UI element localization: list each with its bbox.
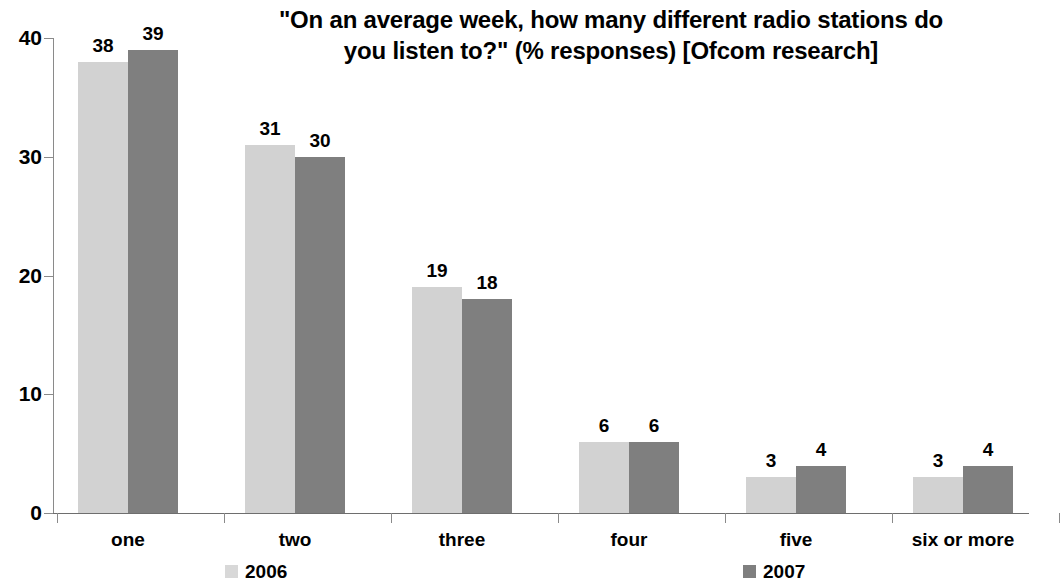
bar-2006-one: [78, 62, 128, 513]
x-axis-label-six-or-more: six or more: [883, 530, 1043, 549]
bar-2007-two: [295, 157, 345, 513]
bar-2006-four: [579, 442, 629, 513]
y-axis-tick: [44, 38, 53, 39]
x-axis-label-three: three: [382, 530, 542, 549]
x-axis-tick: [558, 513, 559, 523]
x-axis-label-four: four: [549, 530, 709, 549]
y-axis-tick: [44, 276, 53, 277]
y-axis-label: 20: [0, 265, 42, 286]
x-axis-tick: [725, 513, 726, 523]
bar-value-label: 3: [913, 451, 963, 470]
x-axis-label-five: five: [716, 530, 876, 549]
y-axis-label: 10: [0, 383, 42, 404]
bar-2007-six-or-more: [963, 466, 1013, 514]
bar-value-label: 18: [462, 273, 512, 292]
x-axis-label-two: two: [215, 530, 375, 549]
bar-value-label: 39: [128, 24, 178, 43]
bar-value-label: 6: [579, 416, 629, 435]
legend-item-2006[interactable]: 2006: [225, 562, 287, 581]
legend-swatch-2007-icon: [743, 565, 756, 578]
y-axis-label: 0: [0, 502, 42, 523]
x-axis-label-one: one: [48, 530, 208, 549]
y-axis-line: [53, 38, 54, 514]
y-axis-label: 30: [0, 146, 42, 167]
bar-2006-three: [412, 287, 462, 513]
bar-2007-five: [796, 466, 846, 514]
x-axis-line: [53, 513, 1029, 514]
x-axis-tick: [391, 513, 392, 523]
y-axis-tick: [44, 394, 53, 395]
legend-label-2006: 2006: [245, 562, 287, 581]
y-axis-tick: [44, 157, 53, 158]
y-axis-tick: [44, 513, 53, 514]
bar-value-label: 6: [629, 416, 679, 435]
bar-value-label: 4: [796, 440, 846, 459]
legend-item-2007[interactable]: 2007: [743, 562, 805, 581]
x-axis-tick: [892, 513, 893, 523]
bar-value-label: 38: [78, 36, 128, 55]
y-axis-label: 40: [0, 27, 42, 48]
bar-value-label: 4: [963, 440, 1013, 459]
bar-2007-three: [462, 299, 512, 513]
x-axis-tick: [57, 513, 58, 523]
bar-value-label: 19: [412, 261, 462, 280]
bar-value-label: 31: [245, 119, 295, 138]
legend-label-2007: 2007: [763, 562, 805, 581]
bar-2006-five: [746, 477, 796, 513]
bar-value-label: 30: [295, 131, 345, 150]
bar-value-label: 3: [746, 451, 796, 470]
bar-2006-six-or-more: [913, 477, 963, 513]
legend-swatch-2006-icon: [225, 565, 238, 578]
chart-title: "On an average week, how many different …: [188, 4, 1034, 66]
x-axis-tick: [224, 513, 225, 523]
bar-2006-two: [245, 145, 295, 513]
bar-2007-four: [629, 442, 679, 513]
bar-2007-one: [128, 50, 178, 513]
